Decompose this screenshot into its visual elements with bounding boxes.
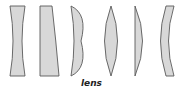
lens-positive-meniscus xyxy=(71,6,83,76)
lens-biconvex xyxy=(105,6,118,76)
lens-plano-concave xyxy=(40,6,59,76)
lens-biconcave xyxy=(10,6,25,76)
figure-caption: lens xyxy=(0,78,183,88)
lens-plano-convex xyxy=(135,6,143,76)
lens-negative-meniscus xyxy=(161,6,175,76)
lens-diagram xyxy=(0,0,183,80)
